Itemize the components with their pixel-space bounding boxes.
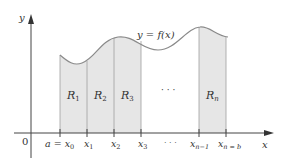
x-axis-arrow-icon <box>264 130 274 136</box>
shaded-regions <box>60 0 226 133</box>
svg-text:x1: x1 <box>84 138 94 151</box>
y-axis-label: y <box>18 12 25 23</box>
svg-text:a = x0: a = x0 <box>45 138 74 151</box>
svg-text:x2: x2 <box>111 138 121 151</box>
region-r1 <box>60 0 87 133</box>
svg-text:· · ·: · · · <box>164 138 177 147</box>
svg-text:xn = b: xn = b <box>218 138 241 151</box>
y-axis-arrow-icon <box>28 14 34 24</box>
svg-text:xn−1: xn−1 <box>190 138 209 151</box>
tick-labels: a = x0 x1 x2 x3 · · · xn−1 xn = b <box>45 138 241 151</box>
svg-text:x3: x3 <box>138 138 148 151</box>
origin-label: 0 <box>22 136 28 147</box>
riemann-regions-diagram: y x 0 y = f(x) R1 R2 R3 · · · Rn a = x0 … <box>0 0 281 161</box>
region-r2 <box>87 0 114 133</box>
region-rn <box>199 0 226 133</box>
region-r3 <box>114 0 141 133</box>
svg-text:· · ·: · · · <box>161 85 175 95</box>
curve-label: y = f(x) <box>136 29 175 40</box>
x-axis-label: x <box>262 139 268 150</box>
